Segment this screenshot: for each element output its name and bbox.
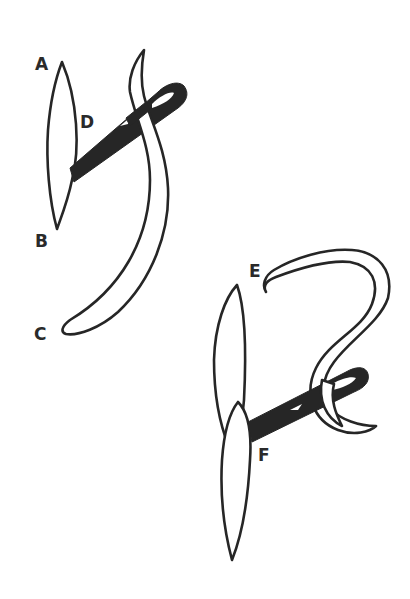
label-f: F bbox=[258, 445, 270, 465]
label-a: A bbox=[35, 54, 49, 74]
tissue-edge-ab bbox=[47, 62, 76, 229]
upper-panel bbox=[47, 50, 186, 334]
label-e: E bbox=[249, 261, 261, 281]
upper-suture-thread bbox=[63, 50, 169, 334]
upper-needle bbox=[70, 83, 187, 182]
suture-diagram: A B C D E F bbox=[0, 0, 410, 599]
label-b: B bbox=[35, 231, 48, 251]
lower-panel bbox=[214, 250, 389, 560]
label-d: D bbox=[80, 112, 94, 132]
label-c: C bbox=[34, 324, 46, 344]
